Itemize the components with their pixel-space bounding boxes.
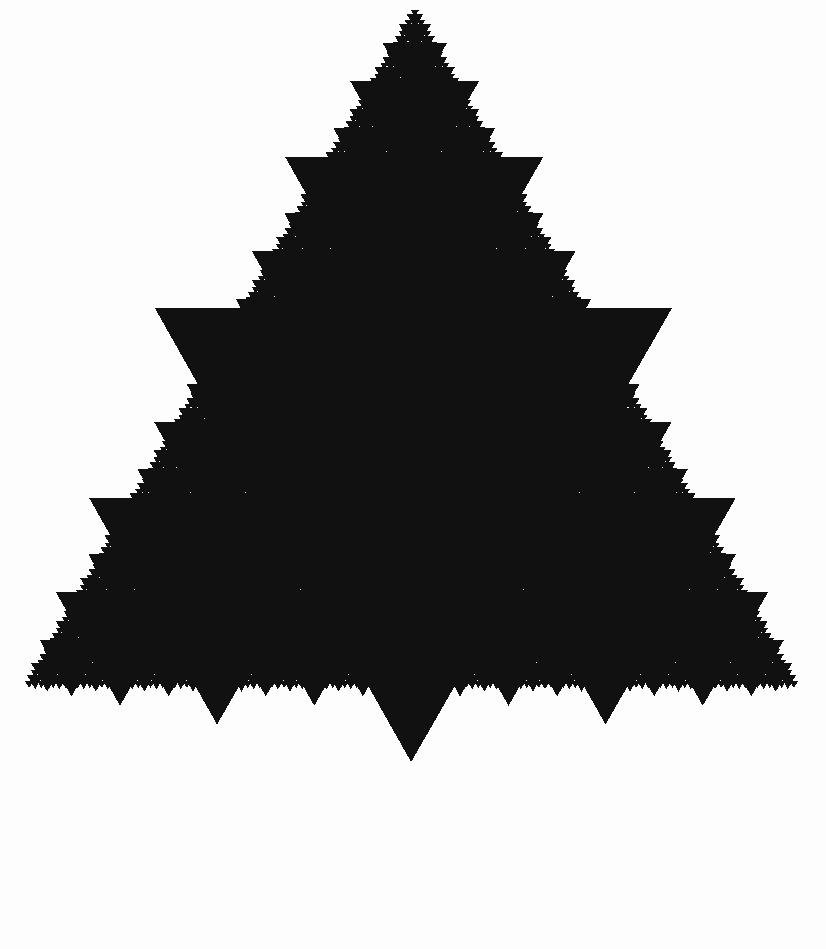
sierpinski-triangle-graphic — [0, 0, 826, 949]
fractal-figure — [0, 0, 826, 949]
